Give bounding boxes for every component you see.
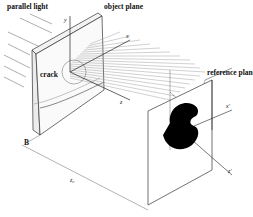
z0-dimension <box>22 135 148 210</box>
reference-plane-label: reference plane <box>207 68 253 77</box>
axis-x-prime-label: x' <box>225 103 231 109</box>
axis-z-prime-label: z' <box>227 168 232 174</box>
crack-label: crack <box>40 70 59 79</box>
diagram-svg: y x z x' z' z₀ B parallel light object p… <box>0 0 253 217</box>
parallel-light-label: parallel light <box>7 2 49 11</box>
axis-z-label: z <box>119 99 123 105</box>
z0-label: z₀ <box>69 177 74 183</box>
axis-x-label: x <box>125 33 129 39</box>
object-plane-label: object plane <box>104 2 144 11</box>
B-label: B <box>24 138 29 147</box>
optical-diagram: y x z x' z' z₀ B parallel light object p… <box>0 0 253 217</box>
axis-y-label: y <box>63 17 67 23</box>
